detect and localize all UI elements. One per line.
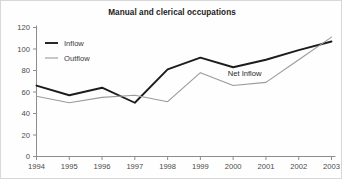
y-tick-label: 80 (22, 66, 30, 75)
x-tick-label: 2003 (323, 162, 340, 171)
chart-container: Manual and clerical occupations 02040608… (0, 0, 342, 179)
x-tick-label: 1999 (192, 162, 209, 171)
y-tick-label: 0 (26, 152, 30, 161)
annotation-net-inflow: Net Inflow (228, 69, 262, 78)
legend-label-outflow: Outflow (64, 54, 90, 63)
chart-legend: InflowOutflow (45, 39, 90, 63)
x-axis: 1994199519961997199819992000200120022003 (28, 157, 340, 171)
y-tick-label: 20 (22, 131, 30, 140)
y-tick-label: 100 (17, 45, 30, 54)
x-tick-label: 1995 (61, 162, 78, 171)
chart-annotations: Net Inflow (228, 69, 262, 78)
x-tick-label: 2002 (290, 162, 307, 171)
y-tick-label: 40 (22, 109, 30, 118)
series-line-inflow (37, 41, 332, 102)
x-tick-label: 2001 (257, 162, 274, 171)
x-tick-label: 1997 (126, 162, 143, 171)
x-tick-label: 1996 (94, 162, 111, 171)
x-tick-label: 1998 (159, 162, 176, 171)
chart-plot-area: 020406080100120 199419951996199719981999… (1, 1, 342, 179)
legend-label-inflow: Inflow (64, 39, 84, 48)
x-tick-label: 2000 (225, 162, 242, 171)
y-tick-label: 120 (17, 23, 30, 32)
x-tick-label: 1994 (28, 162, 45, 171)
y-tick-label: 60 (22, 88, 30, 97)
y-axis: 020406080100120 (17, 23, 36, 161)
